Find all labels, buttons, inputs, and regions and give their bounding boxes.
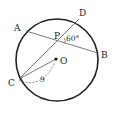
label-a: A: [13, 23, 21, 33]
geometry-diagram: A B C D P O 60° 9: [0, 0, 116, 117]
length-dimension-arc: [19, 62, 55, 83]
label-b: B: [101, 50, 108, 60]
center-point-o: [54, 57, 57, 60]
segment-co: [19, 59, 56, 79]
angle-label: 60°: [66, 34, 80, 43]
label-c: C: [8, 78, 15, 88]
label-o: O: [60, 56, 67, 66]
chord-cd: [19, 19, 79, 79]
chord-ab: [26, 31, 98, 53]
label-d: D: [79, 8, 86, 18]
label-p: P: [54, 31, 60, 41]
length-label: 9: [40, 75, 45, 84]
